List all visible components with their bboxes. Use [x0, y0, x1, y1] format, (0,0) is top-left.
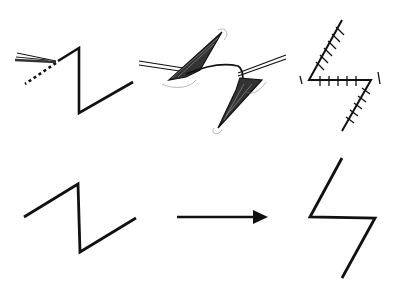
upper-flap: [169, 32, 222, 80]
suture-line: [309, 20, 371, 131]
sutured-panel: [300, 20, 380, 131]
dotted-guide-line: [25, 63, 56, 84]
scalpel-icon: [15, 53, 56, 62]
z-plasty-diagram: [0, 0, 396, 293]
arrow-right-icon: [177, 210, 268, 224]
z-incision-line: [58, 48, 133, 113]
flaps-panel: [139, 29, 286, 134]
schematic-after-z: [310, 158, 375, 278]
incision-panel: [15, 48, 133, 113]
lower-flap: [218, 78, 262, 128]
hook-right: [238, 55, 286, 73]
hook-right-2: [238, 59, 286, 76]
schematic-before-z: [24, 184, 136, 252]
